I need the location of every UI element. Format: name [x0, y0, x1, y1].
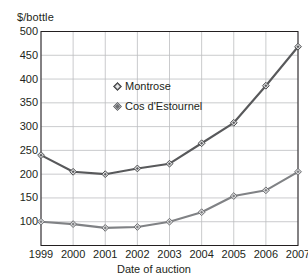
legend-item-montrose[interactable]: Montrose — [113, 80, 171, 92]
diamond-marker-icon — [113, 82, 122, 91]
x-axis-tick-label: 2001 — [93, 249, 117, 260]
x-axis-title: Date of auction — [0, 263, 308, 275]
x-axis-tick-label: 2006 — [254, 249, 278, 260]
x-axis-tick-label: 2002 — [125, 249, 149, 260]
legend-label-cos-destournel: Cos d'Estournel — [125, 100, 202, 112]
x-axis-tick-label: 1999 — [29, 249, 53, 260]
legend-item-cos-destournel[interactable]: Cos d'Estournel — [113, 100, 202, 112]
x-axis-tick-label: 2000 — [61, 249, 85, 260]
auction-price-line-chart: $/bottle 500450400350300250200150100 199… — [0, 0, 308, 280]
diamond-marker-icon — [113, 102, 122, 111]
x-axis-tick-label: 2004 — [189, 249, 213, 260]
x-axis-tick-labels: 199920002001200220032004200520062007 — [0, 0, 308, 280]
legend-label-montrose: Montrose — [125, 80, 171, 92]
x-axis-tick-label: 2003 — [157, 249, 181, 260]
x-axis-tick-label: 2005 — [222, 249, 246, 260]
x-axis-tick-label: 2007 — [286, 249, 308, 260]
